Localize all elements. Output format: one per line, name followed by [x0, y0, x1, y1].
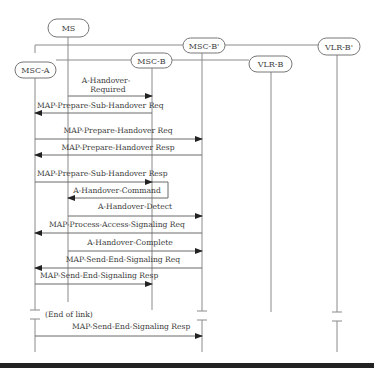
- message-label: MAP-Prepare-Sub-Handover Req: [37, 101, 164, 110]
- entity-msc-a: MSC-A: [15, 62, 56, 78]
- entity-ms-label: MS: [62, 24, 76, 33]
- message-map-prepare-sub-handover-resp: MAP-Prepare-Sub-Handover Resp: [35, 169, 168, 182]
- entity-vlr-b: VLR-B: [249, 56, 292, 72]
- message-map-send-end-signaling-resp-2: MAP-Send-End-Signaling Resp: [35, 322, 202, 336]
- message-label-line-2: Required: [90, 85, 126, 94]
- message-label: MAP-Prepare-Handover Req: [63, 126, 172, 135]
- message-map-send-end-signaling-resp-1: MAP-Send-End-Signaling Resp: [35, 271, 158, 284]
- entity-ms: MS: [48, 19, 89, 37]
- entity-vlr-b2: VLR-B': [318, 38, 360, 55]
- entity-msc-b-label: MSC-B: [137, 57, 165, 66]
- end-of-link-annotation: (End of link): [45, 310, 93, 319]
- message-a-handover-complete: A-Handover-Complete: [68, 238, 202, 251]
- message-label: MAP-Send-End-Signaling Resp: [40, 271, 158, 280]
- entity-msc-b2: MSC-B': [183, 38, 225, 53]
- message-label-line-1: A-Handover-: [81, 76, 131, 85]
- entity-msc-a-label: MSC-A: [21, 66, 49, 75]
- message-label: MAP-Send-End-Signaling Resp: [72, 322, 190, 331]
- bottom-rule: [0, 363, 374, 368]
- message-a-handover-required: A-Handover- Required: [68, 76, 152, 96]
- message-label: A-Handover-Command: [72, 186, 161, 195]
- message-label: MAP-Prepare-Sub-Handover Resp: [37, 169, 168, 178]
- message-map-prepare-handover-req: MAP-Prepare-Handover Req: [35, 126, 202, 139]
- message-label: MAP-Prepare-Handover Resp: [61, 143, 174, 152]
- entity-vlr-b-label: VLR-B: [257, 60, 284, 69]
- message-label: MAP-Process-Access-Signaling Req: [49, 220, 185, 229]
- message-label: MAP-Send-End-Signaling Req: [66, 255, 181, 264]
- message-map-send-end-signaling-req: MAP-Send-End-Signaling Req: [35, 255, 202, 268]
- sequence-diagram: MS MSC-A MSC-B MSC-B' VLR-B VLR-B' A-Han…: [0, 0, 374, 374]
- message-label: A-Handover-Complete: [86, 238, 173, 247]
- entity-vlr-b2-label: VLR-B': [324, 43, 353, 52]
- message-map-prepare-sub-handover-req: MAP-Prepare-Sub-Handover Req: [35, 101, 164, 113]
- entity-msc-b: MSC-B: [131, 53, 172, 68]
- entity-msc-b2-label: MSC-B': [189, 42, 220, 51]
- message-map-process-access-signaling-req: MAP-Process-Access-Signaling Req: [35, 220, 202, 233]
- message-a-handover-command: A-Handover-Command: [68, 182, 168, 198]
- message-label: A-Handover-Detect: [97, 202, 172, 211]
- message-a-handover-detect: A-Handover-Detect: [68, 202, 202, 216]
- message-map-prepare-handover-resp: MAP-Prepare-Handover Resp: [35, 143, 202, 155]
